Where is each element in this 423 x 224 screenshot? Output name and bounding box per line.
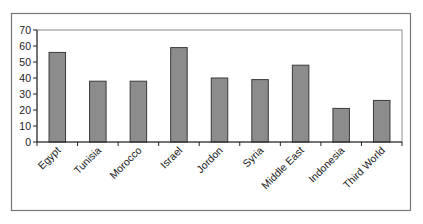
y-tick-label: 20: [19, 104, 31, 116]
y-tick-label: 30: [19, 88, 31, 100]
bar-tunisia: [90, 81, 107, 142]
bar-syria: [252, 80, 268, 142]
bar-middle-east: [292, 65, 309, 142]
bar-morocco: [130, 81, 147, 142]
y-tick-label: 10: [19, 120, 31, 132]
y-tick-label: 50: [19, 56, 31, 68]
y-tick-label: 0: [25, 136, 31, 148]
bar-third-world: [373, 100, 390, 142]
bar-indonesia: [333, 108, 350, 142]
bar-chart: 010203040506070 EgyptTunisiaMoroccoIsrae…: [0, 0, 423, 224]
bar-jordon: [211, 78, 228, 142]
bar-egypt: [49, 52, 66, 142]
bar-israel: [171, 48, 188, 142]
y-tick-label: 70: [19, 24, 31, 36]
y-tick-label: 40: [19, 72, 31, 84]
y-tick-label: 60: [19, 40, 31, 52]
